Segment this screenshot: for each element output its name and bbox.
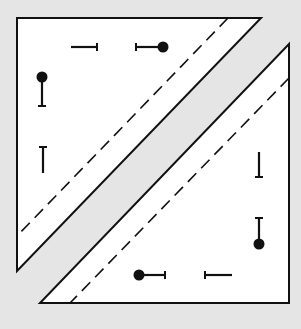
marker-dot-icon: [37, 72, 48, 83]
split-square-diagram: [0, 0, 301, 329]
diagram-canvas: [0, 0, 301, 329]
marker-dot-icon: [158, 42, 169, 53]
marker-dot-icon: [254, 239, 265, 250]
marker-dot-icon: [134, 270, 145, 281]
